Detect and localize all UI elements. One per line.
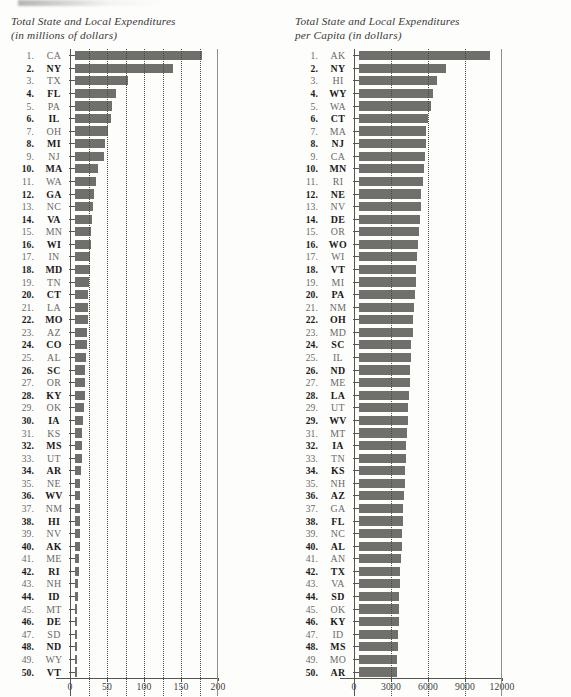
bar [359, 655, 397, 664]
row-state-abbr: PA [39, 101, 69, 112]
row-rank: 15. [8, 226, 39, 237]
bar-cell [75, 502, 280, 515]
chart-panel-total-expenditures: Total State and Local Expenditures (in m… [8, 14, 280, 696]
row-state-abbr: CO [39, 339, 69, 350]
row-rank: 2. [292, 63, 323, 74]
bar [75, 454, 82, 463]
row-rank: 31. [292, 428, 323, 439]
table-row: 8.NJ [292, 137, 564, 150]
row-state-abbr: OH [323, 314, 353, 325]
bar-cell [359, 553, 564, 566]
bar-cell [75, 175, 280, 188]
bar-cell [75, 213, 280, 226]
bar-cell [75, 288, 280, 301]
row-rank: 20. [8, 289, 39, 300]
row-state-abbr: AK [323, 50, 353, 61]
row-rank: 29. [292, 415, 323, 426]
row-rank: 37. [8, 503, 39, 514]
table-row: 7.MA [292, 125, 564, 138]
bar [359, 617, 399, 626]
bar [359, 516, 403, 525]
bar-cell [75, 49, 280, 62]
bar-cell [359, 464, 564, 477]
row-state-abbr: NE [39, 478, 69, 489]
table-row: 14.DE [292, 213, 564, 226]
row-state-abbr: UT [323, 402, 353, 413]
table-row: 27.OR [8, 376, 280, 389]
row-rank: 9. [8, 151, 39, 162]
row-state-abbr: KY [323, 616, 353, 627]
bar [75, 403, 84, 412]
bar-cell [359, 150, 564, 163]
bar-cell [75, 653, 280, 666]
row-rank: 42. [292, 566, 323, 577]
row-state-abbr: SC [323, 339, 353, 350]
row-state-abbr: FL [323, 516, 353, 527]
bar [75, 265, 90, 274]
bar-cell [359, 414, 564, 427]
bar [75, 353, 86, 362]
bar [75, 303, 88, 312]
bar [75, 466, 81, 475]
bar [75, 617, 77, 626]
table-row: 12.GA [8, 188, 280, 201]
table-row: 42.TX [292, 565, 564, 578]
bar [359, 529, 402, 538]
bar [359, 667, 397, 676]
bar-cell [75, 414, 280, 427]
row-state-abbr: MS [39, 440, 69, 451]
row-rank: 2. [8, 63, 39, 74]
bar-cell [75, 339, 280, 352]
table-row: 13.NC [8, 200, 280, 213]
row-rank: 44. [8, 591, 39, 602]
table-row: 25.AL [8, 351, 280, 364]
bar [75, 630, 77, 639]
row-state-abbr: NH [323, 478, 353, 489]
bar-cell [75, 376, 280, 389]
row-rank: 9. [292, 151, 323, 162]
row-rank: 12. [292, 189, 323, 200]
table-row: 17.IN [8, 251, 280, 264]
bar [359, 454, 406, 463]
bar-cell [359, 226, 564, 239]
bar-cell [75, 540, 280, 553]
bar [75, 554, 79, 563]
bar [359, 202, 421, 211]
row-state-abbr: TN [323, 453, 353, 464]
row-rank: 50. [292, 667, 323, 678]
row-rank: 33. [8, 453, 39, 464]
plot-area-per-capita-expenditures: 1.AK2.NY3.HI4.WY5.WA6.CT7.MA8.NJ9.CA10.M… [292, 49, 564, 696]
table-row: 11.RI [292, 175, 564, 188]
table-row: 4.WY [292, 87, 564, 100]
row-rank: 11. [292, 176, 323, 187]
row-rank: 26. [292, 365, 323, 376]
table-row: 29.OK [8, 402, 280, 415]
table-row: 26.ND [292, 364, 564, 377]
row-state-abbr: CA [39, 50, 69, 61]
bar-cell [359, 314, 564, 327]
bar [359, 89, 433, 98]
table-row: 27.ME [292, 376, 564, 389]
row-rank: 36. [8, 490, 39, 501]
table-row: 21.NM [292, 301, 564, 314]
bar [359, 64, 446, 73]
row-rank: 21. [292, 302, 323, 313]
row-state-abbr: KS [323, 465, 353, 476]
row-rank: 34. [8, 465, 39, 476]
bar-cell [75, 565, 280, 578]
page-root: Total State and Local Expenditures (in m… [0, 0, 571, 697]
bar-cell [75, 402, 280, 415]
bar [75, 542, 80, 551]
row-rank: 15. [292, 226, 323, 237]
row-state-abbr: IL [323, 352, 353, 363]
bar-cell [359, 339, 564, 352]
bar [359, 542, 402, 551]
table-row: 20.PA [292, 288, 564, 301]
row-state-abbr: MT [323, 428, 353, 439]
bar [75, 491, 80, 500]
bar [359, 114, 428, 123]
bar [75, 479, 80, 488]
row-rank: 24. [8, 339, 39, 350]
table-row: 1.CA [8, 49, 280, 62]
row-state-abbr: ID [323, 629, 353, 640]
